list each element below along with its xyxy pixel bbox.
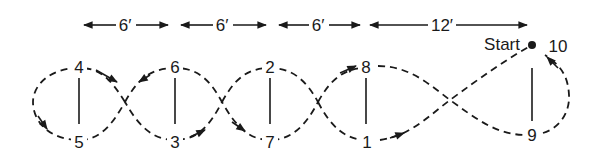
direction-arrow-icon [390, 133, 404, 138]
path-8-to-9 [378, 66, 524, 135]
dimension-segment-1: 6′ [84, 16, 168, 35]
dimension-segment-2: 6′ [181, 16, 266, 35]
figure-eight-course-diagram: 6′ 6′ 6′ 12′ [0, 0, 600, 155]
point-label-3: 3 [170, 133, 179, 152]
start-label: Start [484, 35, 520, 54]
dimension-segment-3: 6′ [279, 16, 360, 35]
course-path [33, 45, 569, 140]
point-label-7: 7 [265, 133, 274, 152]
direction-arrow-icon [139, 75, 150, 82]
direction-arrow-icon [190, 130, 205, 137]
point-labels: 4 5 6 3 2 7 8 1 9 10 [71, 37, 567, 152]
dimension-label: 12′ [431, 16, 453, 35]
point-label-2: 2 [265, 58, 274, 77]
dimension-label: 6′ [119, 16, 132, 35]
direction-arrow-icon [232, 122, 245, 131]
point-label-4: 4 [74, 58, 83, 77]
loop-8-1-left [318, 68, 367, 140]
point-label-6: 6 [170, 58, 179, 77]
loop-6-3 [125, 68, 222, 140]
dimension-segment-4: 12′ [370, 16, 527, 35]
direction-arrow-icon [96, 70, 117, 82]
point-label-8: 8 [361, 58, 370, 77]
dimension-arrows: 6′ 6′ 6′ 12′ [84, 16, 527, 35]
dimension-label: 6′ [312, 16, 325, 35]
start-dot-icon [528, 41, 536, 49]
point-label-1: 1 [362, 133, 371, 152]
point-label-9: 9 [527, 126, 536, 145]
direction-arrows [38, 57, 558, 138]
point-label-10: 10 [549, 37, 568, 56]
point-label-5: 5 [74, 133, 83, 152]
path-1-to-start [380, 45, 532, 140]
direction-arrow-icon [547, 57, 558, 68]
dimension-label: 6′ [216, 16, 229, 35]
